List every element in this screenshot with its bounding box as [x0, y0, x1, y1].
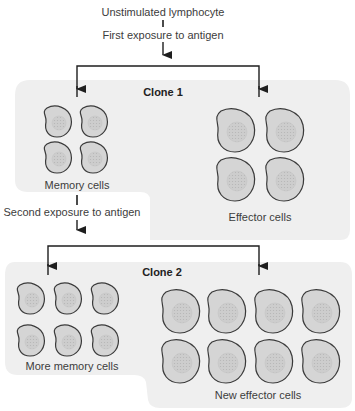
clone2-effector-label: New effector cells: [215, 389, 302, 401]
clone1-title: Clone 1: [143, 86, 183, 98]
unstimulated-lymphocyte-label: Unstimulated lymphocyte: [102, 6, 225, 18]
first-exposure-label: First exposure to antigen: [102, 29, 223, 41]
second-exposure-label: Second exposure to antigen: [4, 206, 141, 218]
clone1-effector-label: Effector cells: [229, 211, 292, 223]
clone2-memory-label: More memory cells: [26, 360, 119, 372]
clone2-title: Clone 2: [142, 266, 182, 278]
clone1-memory-label: Memory cells: [45, 179, 110, 191]
